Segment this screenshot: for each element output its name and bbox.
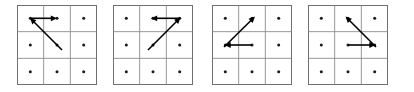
- cell-dot: [251, 70, 254, 73]
- cell-dot: [125, 70, 128, 73]
- figure-root: Four 3x3 grid panels with directional ar…: [0, 0, 414, 92]
- panel-3: [212, 5, 292, 85]
- cell-dot: [320, 70, 323, 73]
- cell-dot: [277, 70, 280, 73]
- cell-dot: [152, 70, 155, 73]
- cell-dot: [56, 70, 59, 73]
- cell-dot: [277, 44, 280, 47]
- cell-dot: [125, 17, 128, 20]
- cell-dot: [373, 17, 376, 20]
- panel-3-canvas: [212, 5, 292, 85]
- cell-dot: [277, 17, 280, 20]
- cell-dot: [347, 70, 350, 73]
- cell-dot: [320, 44, 323, 47]
- panel-1-canvas: [17, 5, 97, 85]
- cell-dot: [29, 44, 32, 47]
- panel-4-canvas: [308, 5, 388, 85]
- cell-dot: [320, 17, 323, 20]
- cell-dot: [178, 44, 181, 47]
- cell-dot: [82, 17, 85, 20]
- cell-dot: [178, 70, 181, 73]
- cell-dot: [125, 44, 128, 47]
- cell-dot: [82, 44, 85, 47]
- panel-4: [308, 5, 388, 85]
- cell-dot: [224, 17, 227, 20]
- cell-dot: [29, 70, 32, 73]
- panel-1: [17, 5, 97, 85]
- panel-2: [113, 5, 193, 85]
- panel-2-canvas: [113, 5, 193, 85]
- cell-dot: [224, 70, 227, 73]
- cell-dot: [373, 70, 376, 73]
- cell-dot: [82, 70, 85, 73]
